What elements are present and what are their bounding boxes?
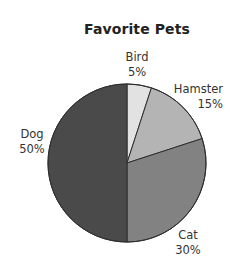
label-cat: Cat 30% xyxy=(170,228,206,258)
pie-slice-dog xyxy=(48,84,127,242)
label-cat-value: 30% xyxy=(170,243,206,258)
label-hamster: Hamster 15% xyxy=(168,82,223,112)
label-bird-value: 5% xyxy=(120,65,154,80)
label-dog-name: Dog xyxy=(14,127,50,142)
label-hamster-name: Hamster xyxy=(168,82,223,97)
label-dog-value: 50% xyxy=(14,142,50,157)
label-bird-name: Bird xyxy=(120,50,154,65)
label-dog: Dog 50% xyxy=(14,127,50,157)
label-bird: Bird 5% xyxy=(120,50,154,80)
label-hamster-value: 15% xyxy=(168,97,223,112)
label-cat-name: Cat xyxy=(170,228,206,243)
